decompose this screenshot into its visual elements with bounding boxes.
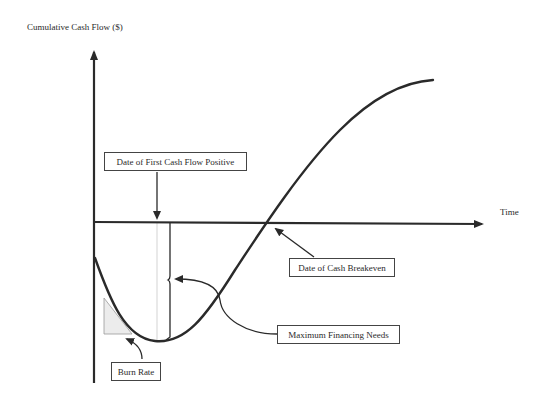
cumulative-cash-flow-curve	[95, 80, 433, 341]
y-axis-label: Cumulative Cash Flow ($)	[27, 23, 123, 32]
cash-breakeven-label: Date of Cash Breakeven	[289, 258, 395, 277]
first-cash-flow-positive-label: Date of First Cash Flow Positive	[104, 152, 247, 171]
burn-rate-label: Burn Rate	[111, 362, 161, 381]
burn-rate-triangle	[104, 298, 132, 334]
x-axis-label: Time	[500, 208, 519, 217]
cash-breakeven-arrow	[276, 229, 314, 257]
x-axis	[94, 222, 482, 224]
max-financing-bracket	[166, 222, 170, 340]
burn-rate-arrow	[127, 339, 142, 359]
max-financing-label: Maximum Financing Needs	[277, 325, 400, 344]
max-financing-arrow	[176, 279, 277, 334]
cash-flow-diagram	[0, 0, 551, 406]
